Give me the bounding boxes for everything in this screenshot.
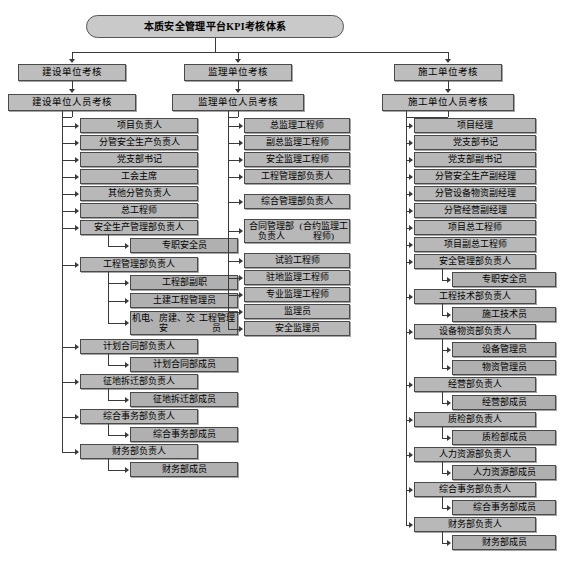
org-item-box[interactable]: 综合管理部负责人 (244, 194, 350, 209)
org-item-box[interactable]: 财务部负责人 (414, 517, 536, 532)
org-item-box[interactable]: 监理员 (244, 304, 350, 319)
arrow-head-right (239, 228, 243, 234)
org-subitem-box[interactable]: 专职安全员 (130, 238, 238, 253)
org-item-box[interactable]: 其他分管负责人 (80, 186, 198, 201)
org-item-box[interactable]: 征地拆迁部负责人 (80, 374, 198, 389)
arrow-head-right (447, 540, 451, 546)
org-subitem-box[interactable]: 工程部副职 (130, 275, 238, 290)
connector-spine-tick (62, 382, 76, 383)
arrow-head-right (409, 487, 413, 493)
org-item-box[interactable]: 工程管理部负责人 (80, 257, 198, 272)
org-item-box[interactable]: 专业监理工程师 (244, 287, 350, 302)
arrow-head-right (409, 191, 413, 197)
arrow-head-right (75, 174, 79, 180)
connector-spine-tick (62, 265, 76, 266)
org-item-box[interactable]: 项目负责人 (80, 118, 198, 133)
arrow-head-right (239, 309, 243, 315)
org-subitem-box[interactable]: 综合事务部成员 (452, 500, 556, 515)
arrow-head-right (409, 208, 413, 214)
connector-child-elbow-h (108, 400, 126, 401)
org-item-box[interactable]: 项目经理 (414, 118, 536, 133)
org-item-box[interactable]: 项目副总工程师 (414, 237, 536, 252)
org-subitem-box[interactable]: 计划合同部成员 (130, 357, 238, 372)
org-subitem-box[interactable]: 专职安全员 (452, 272, 556, 287)
org-item-box[interactable]: 设备物资部负责人 (414, 324, 536, 339)
org-subitem-box[interactable]: 土建工程管理员 (130, 293, 238, 308)
connector-child-elbow-h (108, 283, 126, 284)
connector-root-bus (72, 52, 448, 53)
org-item-box[interactable]: 工程管理部负责人 (244, 169, 350, 184)
org-subitem-box[interactable]: 设备管理员 (452, 342, 556, 357)
org-item-box[interactable]: 人力资源部负责人 (414, 447, 536, 462)
connector-level3-stem (448, 111, 449, 117)
org-item-box[interactable]: 财务部负责人 (80, 444, 198, 459)
org-item-box[interactable]: 综合事务部负责人 (80, 409, 198, 424)
diagram-canvas: 本质安全管理平台KPI考核体系 建设单位考核建设单位人员考核监理单位考核监理单位… (0, 0, 564, 587)
arrow-head-down (69, 89, 75, 93)
org-item-box[interactable]: 安全监理员 (244, 321, 350, 336)
org-item-box[interactable]: 合同管理部负责人(合约监理工程师) (244, 219, 350, 243)
org-item-box[interactable]: 计划合同部负责人 (80, 339, 198, 354)
org-subitem-box[interactable]: 质检部成员 (452, 430, 556, 445)
arrow-head-right (409, 123, 413, 129)
org-item-box[interactable]: 分管安全生产负责人 (80, 135, 198, 150)
org-subitem-box[interactable]: 机电、房建、交安工程管理员 (130, 311, 238, 335)
org-subitem-box[interactable]: 经营部成员 (452, 395, 556, 410)
arrow-head-right (409, 452, 413, 458)
branch-level2-box-branch-supervision[interactable]: 监理单位考核 (184, 64, 292, 81)
connector-child-elbow-h (108, 323, 126, 324)
arrow-head-right (125, 320, 129, 326)
org-item-box[interactable]: 经营部负责人 (414, 377, 536, 392)
org-item-box[interactable]: 党支部副书记 (414, 152, 536, 167)
org-item-box[interactable]: 综合事务部负责人 (414, 482, 536, 497)
connector-spine-tick (62, 417, 76, 418)
branch-level3-box-branch-construction-owner[interactable]: 建设单位人员考核 (8, 94, 136, 111)
org-subitem-box[interactable]: 征地拆迁部成员 (130, 392, 238, 407)
org-item-box[interactable]: 试验工程师 (244, 253, 350, 268)
org-item-box[interactable]: 驻地监理工程师 (244, 270, 350, 285)
arrow-head-right (447, 435, 451, 441)
org-item-box[interactable]: 工程技术部负责人 (414, 289, 536, 304)
branch-level3-box-branch-contractor[interactable]: 施工单位人员考核 (382, 94, 514, 111)
arrow-head-right (75, 123, 79, 129)
connector-spine-tick (62, 177, 76, 178)
arrow-head-right (447, 470, 451, 476)
org-item-box[interactable]: 安全监理工程师 (244, 152, 350, 167)
org-item-box[interactable]: 工会主席 (80, 169, 198, 184)
org-item-box[interactable]: 分管经营副经理 (414, 203, 536, 218)
org-item-box[interactable]: 分管设备物资副经理 (414, 186, 536, 201)
arrow-head-down (445, 89, 451, 93)
org-subitem-box[interactable]: 施工技术员 (452, 307, 556, 322)
connector-spine-tick (62, 228, 76, 229)
org-subitem-box[interactable]: 财务部成员 (130, 462, 238, 477)
org-subitem-box[interactable]: 物资管理员 (452, 360, 556, 375)
arrow-head-right (239, 157, 243, 163)
org-item-box[interactable]: 质检部负责人 (414, 412, 536, 427)
org-subitem-box[interactable]: 人力资源部成员 (452, 465, 556, 480)
branch-level3-box-branch-supervision[interactable]: 监理单位人员考核 (172, 94, 304, 111)
connector-child-elbow-v (108, 388, 109, 400)
arrow-head-right (239, 174, 243, 180)
org-item-box[interactable]: 项目总工程师 (414, 220, 536, 235)
org-item-box[interactable]: 安全管理部负责人 (414, 254, 536, 269)
org-item-box[interactable]: 分管安全生产副经理 (414, 169, 536, 184)
org-subitem-box[interactable]: 财务部成员 (452, 535, 556, 550)
arrow-head-right (409, 157, 413, 163)
org-subitem-box[interactable]: 综合事务部成员 (130, 427, 238, 442)
org-item-box[interactable]: 党支部书记 (80, 152, 198, 167)
connector-level3-stem (238, 111, 239, 117)
branch-level2-box-branch-contractor[interactable]: 施工单位考核 (394, 64, 502, 81)
org-item-box[interactable]: 总监理工程师 (244, 118, 350, 133)
arrow-head-right (239, 326, 243, 332)
connector-child-elbow-v (108, 458, 109, 470)
arrow-head-right (75, 157, 79, 163)
arrow-head-right (447, 400, 451, 406)
connector-child-elbow-v (442, 268, 443, 280)
org-item-box[interactable]: 党支部书记 (414, 135, 536, 150)
branch-level2-box-branch-construction-owner[interactable]: 建设单位考核 (18, 64, 126, 81)
arrow-head-right (75, 262, 79, 268)
connector-child-elbow-v (442, 496, 443, 508)
org-item-box[interactable]: 安全生产管理部负责人 (80, 220, 198, 235)
org-item-box[interactable]: 副总监理工程师 (244, 135, 350, 150)
org-item-box[interactable]: 总工程师 (80, 203, 198, 218)
